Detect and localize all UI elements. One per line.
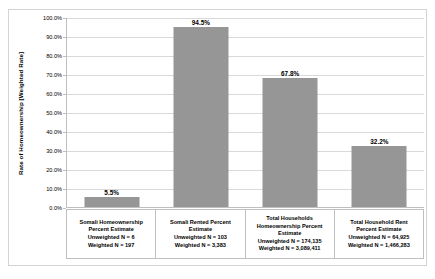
bar-value-label: 32.2%	[370, 138, 388, 145]
bar[interactable]	[84, 197, 139, 207]
category-cell: Total Household RentPercent EstimateUnwe…	[335, 210, 424, 258]
bar[interactable]	[173, 27, 228, 207]
plot-area: 5.5%94.5%67.8%32.2%	[66, 18, 424, 208]
category-label-table: Somali HomeownershipPercent EstimateUnwe…	[66, 209, 424, 259]
category-name-line: Total Households	[266, 215, 313, 223]
y-axis-tick-labels: 100.0%90.0%80.0%70.0%60.0%50.0%40.0%30.0…	[26, 18, 62, 208]
y-axis-tick-label: 70.0%	[26, 72, 62, 78]
bar-value-label: 94.5%	[192, 19, 210, 26]
bars-layer: 5.5%94.5%67.8%32.2%	[67, 18, 424, 207]
bar[interactable]	[263, 78, 318, 207]
y-axis-title-label: Rate of Homeownership [Weighted Rate]	[18, 51, 25, 174]
category-weighted-n: Weighted N = 3,383	[175, 242, 226, 250]
y-axis-tick-label: 50.0%	[26, 110, 62, 116]
category-name-line: Estimate	[278, 230, 301, 238]
category-unweighted-n: Unweighted N = 174,135	[258, 238, 322, 246]
y-axis-tick-label: 10.0%	[26, 186, 62, 192]
category-cell: Somali HomeownershipPercent EstimateUnwe…	[67, 210, 156, 258]
category-name-line: Somali Homeownership	[79, 219, 142, 227]
category-unweighted-n: Unweighted N = 6	[88, 234, 135, 242]
category-name-line: Percent Estimate	[356, 226, 401, 234]
bar-chart: Rate of Homeownership [Weighted Rate] 10…	[0, 0, 435, 279]
category-unweighted-n: Unweighted N = 64,925	[348, 234, 409, 242]
bar-value-label: 5.5%	[104, 189, 119, 196]
y-axis-tick-label: 20.0%	[26, 167, 62, 173]
bar-slot: 5.5%	[67, 18, 156, 207]
category-name-line: Homeownership Percent	[257, 223, 323, 231]
bar-value-label: 67.8%	[281, 70, 299, 77]
y-axis-tick-label: 40.0%	[26, 129, 62, 135]
y-axis-tick-label: 60.0%	[26, 91, 62, 97]
bar-slot: 94.5%	[156, 18, 245, 207]
y-axis-tick-label: 100.0%	[26, 15, 62, 21]
category-cell: Somali Rented PercentEstimateUnweighted …	[156, 210, 245, 258]
category-name-line: Somali Rented Percent	[170, 219, 231, 227]
bar-slot: 32.2%	[335, 18, 424, 207]
y-axis-tick-label: 0.0%	[26, 205, 62, 211]
category-weighted-n: Weighted N = 1,466,283	[348, 242, 410, 250]
category-name-line: Estimate	[189, 226, 212, 234]
y-axis-tick-label: 30.0%	[26, 148, 62, 154]
category-unweighted-n: Unweighted N = 103	[174, 234, 227, 242]
bar[interactable]	[352, 146, 407, 207]
y-axis-tick-label: 80.0%	[26, 53, 62, 59]
y-axis-tick-label: 90.0%	[26, 34, 62, 40]
bar-slot: 67.8%	[246, 18, 335, 207]
category-cell: Total HouseholdsHomeownership PercentEst…	[246, 210, 335, 258]
category-name-line: Percent Estimate	[88, 226, 133, 234]
category-weighted-n: Weighted N = 197	[88, 242, 134, 250]
category-weighted-n: Weighted N = 3,089,411	[259, 245, 321, 253]
category-name-line: Total Household Rent	[350, 219, 407, 227]
